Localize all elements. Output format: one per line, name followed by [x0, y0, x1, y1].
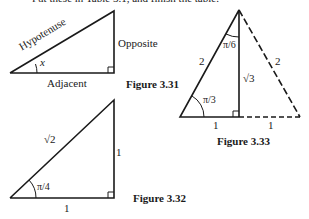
- left-side-2-label: 2: [199, 56, 205, 67]
- adjacent-label: Adjacent: [47, 78, 87, 89]
- sqrt3-height-label: √3: [243, 73, 255, 84]
- figure-3-32-caption: Figure 3.32: [133, 193, 186, 204]
- side-1-bottom-label: 1: [64, 203, 70, 214]
- side-1-right-label: 1: [116, 147, 122, 158]
- figure-3-33-triangle: [180, 10, 300, 117]
- figure-3-32-triangle: [10, 100, 114, 198]
- angle-x-label: x: [40, 57, 45, 68]
- angle-pi-3-label: π/3: [203, 95, 216, 105]
- figure-3-33-caption: Figure 3.33: [217, 136, 270, 147]
- angle-pi-4-label: π/4: [37, 182, 50, 192]
- angle-pi-6-label: π/6: [223, 40, 236, 50]
- right-side-2-label: 2: [275, 56, 281, 67]
- right-base-1-label: 1: [268, 120, 274, 131]
- left-base-1-label: 1: [213, 120, 219, 131]
- opposite-label: Opposite: [118, 38, 158, 49]
- sqrt2-hypotenuse-label: √2: [44, 134, 56, 145]
- figure-3-31-caption: Figure 3.31: [126, 79, 179, 90]
